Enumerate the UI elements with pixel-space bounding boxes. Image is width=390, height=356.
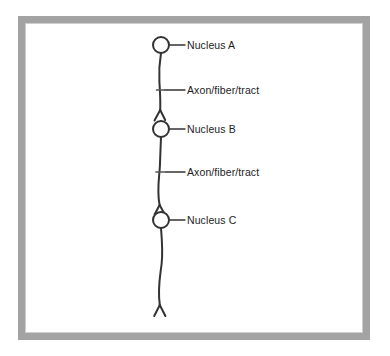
axon-segment-b-to-c (158, 137, 161, 205)
branch-above-b-left (155, 110, 161, 121)
axon-pathway-group (154, 53, 165, 316)
axon-segment-c-to-terminal (159, 228, 162, 305)
label-nucleus-a: Nucleus A (187, 39, 235, 51)
label-nucleus-c: Nucleus C (187, 214, 236, 226)
branch-above-b-right (160, 110, 165, 120)
figure-root: Nucleus A Axon/fiber/tract Nucleus B Axo… (0, 0, 390, 356)
terminal-fork-right (160, 305, 166, 316)
axon-segment-a-to-b (159, 53, 161, 110)
terminal-fork-left (154, 305, 160, 316)
label-axon-lower: Axon/fiber/tract (187, 166, 259, 178)
label-axon-upper: Axon/fiber/tract (187, 84, 259, 96)
nucleus-a-circle (153, 37, 169, 53)
pathway-diagram (0, 0, 390, 356)
label-nucleus-b: Nucleus B (187, 123, 236, 135)
nuclei-group (153, 37, 169, 228)
nucleus-b-circle (153, 121, 169, 137)
nucleus-c-circle (153, 212, 169, 228)
